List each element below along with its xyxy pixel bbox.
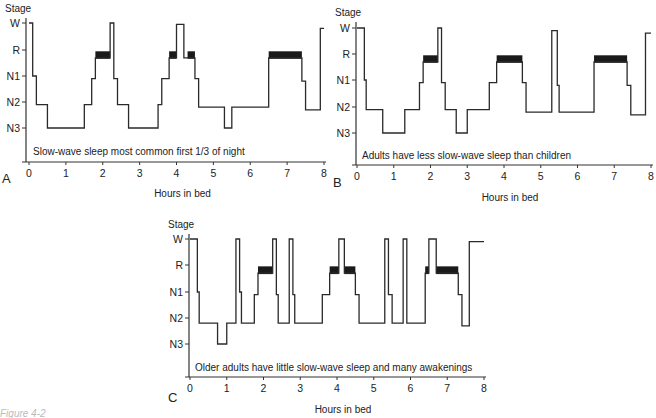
y-tick-label: N1 bbox=[7, 70, 21, 82]
y-tick-label: R bbox=[175, 259, 183, 271]
x-tick-label: 3 bbox=[464, 170, 470, 182]
x-tick-label: 5 bbox=[538, 170, 544, 182]
x-tick-label: 5 bbox=[210, 167, 216, 179]
y-tick-label: N3 bbox=[7, 122, 21, 134]
panel-label: C bbox=[168, 390, 177, 405]
hypnogram-line bbox=[357, 28, 651, 133]
x-tick-label: 0 bbox=[187, 382, 193, 394]
x-tick-label: 0 bbox=[26, 167, 32, 179]
x-tick-label: 6 bbox=[408, 382, 414, 394]
x-tick-label: 2 bbox=[100, 167, 106, 179]
hypnogram-line bbox=[190, 239, 484, 344]
y-axis-title: Stage bbox=[168, 219, 195, 230]
y-tick-label: W bbox=[10, 17, 20, 29]
y-tick-label: N2 bbox=[170, 312, 184, 324]
y-tick-label: N2 bbox=[337, 101, 351, 113]
x-tick-label: 7 bbox=[284, 167, 290, 179]
x-tick-label: 2 bbox=[428, 170, 434, 182]
x-tick-label: 4 bbox=[174, 167, 180, 179]
x-axis-title: Hours in bed bbox=[482, 192, 539, 203]
x-tick-label: 4 bbox=[501, 170, 507, 182]
x-axis-title: Hours in bed bbox=[315, 404, 372, 415]
hypnogram-figure: StageWRN1N2N3012345678Hours in bedASlow-… bbox=[0, 0, 656, 418]
y-axis-title: Stage bbox=[5, 3, 32, 14]
hypnogram-line bbox=[29, 23, 324, 128]
x-tick-label: 0 bbox=[354, 170, 360, 182]
chart-panel-a: StageWRN1N2N3012345678Hours in bedASlow-… bbox=[2, 3, 327, 199]
x-tick-label: 8 bbox=[648, 170, 654, 182]
figure-caption: Figure 4-2 bbox=[0, 408, 46, 418]
x-tick-label: 7 bbox=[611, 170, 617, 182]
y-tick-label: N1 bbox=[170, 286, 184, 298]
chart-panel-c: StageWRN1N2N3012345678Hours in bedCOlder… bbox=[168, 219, 487, 415]
x-tick-label: 3 bbox=[297, 382, 303, 394]
panel-label: B bbox=[333, 175, 342, 190]
chart-annotation: Slow-wave sleep most common first 1/3 of… bbox=[33, 146, 245, 157]
x-tick-label: 8 bbox=[481, 382, 487, 394]
chart-annotation: Adults have less slow-wave sleep than ch… bbox=[362, 150, 571, 161]
x-tick-label: 5 bbox=[371, 382, 377, 394]
x-tick-label: 2 bbox=[261, 382, 267, 394]
y-tick-label: N1 bbox=[337, 74, 351, 86]
y-tick-label: N3 bbox=[170, 338, 184, 350]
y-tick-label: N2 bbox=[7, 96, 21, 108]
y-tick-label: W bbox=[173, 233, 183, 245]
x-tick-label: 8 bbox=[321, 167, 327, 179]
x-tick-label: 1 bbox=[224, 382, 230, 394]
y-tick-label: N3 bbox=[337, 127, 351, 139]
panel-label: A bbox=[2, 171, 11, 186]
x-tick-label: 6 bbox=[575, 170, 581, 182]
x-tick-label: 7 bbox=[444, 382, 450, 394]
y-tick-label: R bbox=[342, 48, 350, 60]
chart-panel-b: StageWRN1N2N3012345678Hours in bedBAdult… bbox=[333, 7, 654, 203]
y-tick-label: R bbox=[12, 44, 20, 56]
chart-annotation: Older adults have little slow-wave sleep… bbox=[195, 362, 472, 373]
x-tick-label: 1 bbox=[63, 167, 69, 179]
x-tick-label: 1 bbox=[391, 170, 397, 182]
x-tick-label: 6 bbox=[247, 167, 253, 179]
y-axis-title: Stage bbox=[335, 7, 362, 18]
x-tick-label: 4 bbox=[334, 382, 340, 394]
x-axis-title: Hours in bed bbox=[154, 188, 211, 199]
y-tick-label: W bbox=[340, 22, 350, 34]
x-tick-label: 3 bbox=[137, 167, 143, 179]
